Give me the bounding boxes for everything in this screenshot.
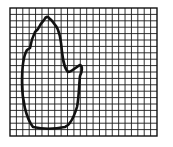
hand-on-grid-figure [0, 0, 173, 147]
grid-lines [10, 8, 157, 136]
